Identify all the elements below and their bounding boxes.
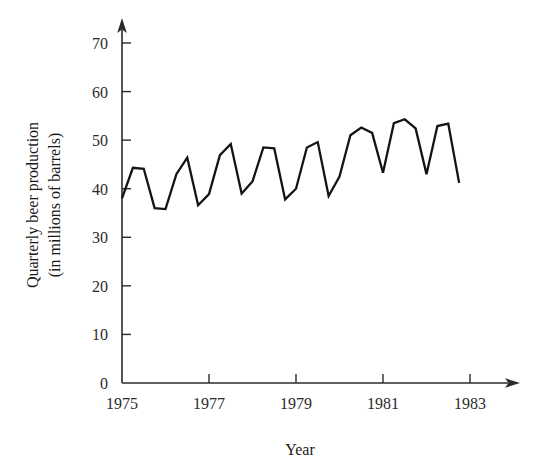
y-tick-label: 70: [92, 35, 108, 52]
y-axis-title-line2: (in millions of barrels): [46, 133, 64, 277]
y-tick-label: 20: [92, 278, 108, 295]
x-tick-label: 1979: [280, 395, 312, 412]
beer-production-chart: 010203040506070 19751977197919811983 Yea…: [0, 0, 536, 465]
y-tick-label: 40: [92, 181, 108, 198]
y-tick-label: 50: [92, 132, 108, 149]
y-tick-label: 30: [92, 229, 108, 246]
y-tick-label: 0: [100, 375, 108, 392]
x-tick-label: 1983: [454, 395, 486, 412]
y-tick-label: 10: [92, 326, 108, 343]
y-tick-label: 60: [92, 84, 108, 101]
x-tick-label: 1977: [193, 395, 225, 412]
x-tick-label: 1975: [106, 395, 138, 412]
x-tick-label: 1981: [367, 395, 399, 412]
x-axis-title: Year: [285, 441, 315, 458]
y-axis-title-line1: Quarterly beer production: [24, 122, 42, 288]
